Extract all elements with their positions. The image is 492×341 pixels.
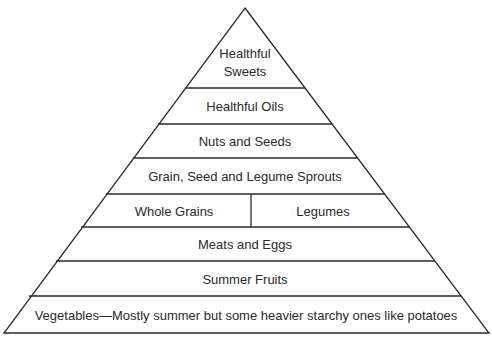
- food-pyramid-diagram: Healthful Sweets Healthful Oils Nuts and…: [0, 0, 492, 341]
- layer-label-whole-grains: Whole Grains: [135, 204, 214, 219]
- layer-label-meats-eggs: Meats and Eggs: [198, 237, 292, 252]
- layer-label-legumes: Legumes: [296, 204, 350, 219]
- layer-label-healthful-sweets-2: Sweets: [224, 64, 267, 79]
- layer-label-healthful-oils: Healthful Oils: [206, 99, 284, 114]
- layer-label-nuts-and-seeds: Nuts and Seeds: [199, 134, 292, 149]
- layer-label-summer-fruits: Summer Fruits: [202, 272, 288, 287]
- layer-label-sprouts: Grain, Seed and Legume Sprouts: [148, 169, 342, 184]
- layer-label-healthful-sweets-1: Healthful: [219, 46, 270, 61]
- layer-label-vegetables: Vegetables—Mostly summer but some heavie…: [35, 308, 458, 323]
